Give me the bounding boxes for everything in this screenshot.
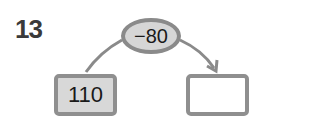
start-value: 110 bbox=[68, 82, 103, 108]
answer-box[interactable] bbox=[186, 74, 249, 116]
start-value-box: 110 bbox=[54, 74, 117, 116]
operation-oval: −80 bbox=[121, 18, 181, 54]
operation-label: −80 bbox=[134, 25, 168, 48]
